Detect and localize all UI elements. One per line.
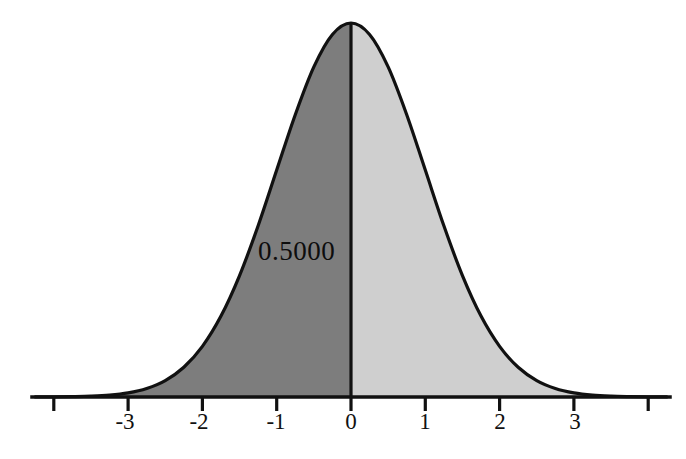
normal-distribution-figure: -3 -2 -1 0 1 2 3 0.5000 <box>0 0 686 459</box>
left-shaded-area <box>35 23 351 397</box>
distribution-plot-svg <box>0 0 686 459</box>
x-tick-label-neg3: -3 <box>115 410 134 433</box>
right-shaded-area <box>351 23 667 397</box>
x-tick-label-neg2: -2 <box>189 410 208 433</box>
x-tick-label-1: 1 <box>419 410 431 433</box>
x-tick-label-0: 0 <box>345 410 357 433</box>
x-tick-label-3: 3 <box>569 410 581 433</box>
area-probability-label: 0.5000 <box>258 238 335 265</box>
x-tick-label-neg1: -1 <box>266 410 285 433</box>
x-tick-label-2: 2 <box>494 410 506 433</box>
